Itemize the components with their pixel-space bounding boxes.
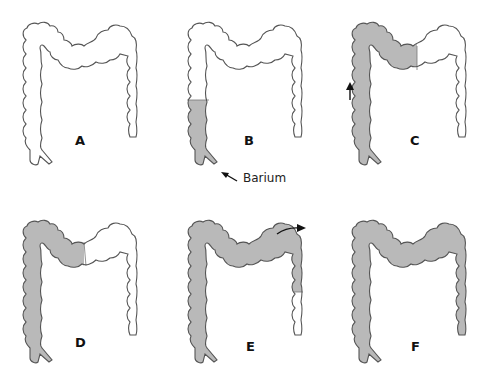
- colon-empty-icon: [0, 0, 165, 193]
- colon-partially-filled-icon: [329, 0, 494, 193]
- colon-fully-filled-icon: [329, 198, 494, 386]
- panel-label: D: [75, 335, 86, 350]
- panel-e: E: [165, 198, 330, 386]
- panel-c: C: [329, 0, 494, 193]
- panel-label: F: [411, 339, 420, 354]
- panel-f: F: [329, 198, 494, 386]
- panel-label: C: [410, 133, 420, 148]
- barium-enema-figure: A B Barium: [0, 0, 497, 386]
- panel-d: D: [0, 198, 165, 386]
- colon-partially-filled-icon: [165, 198, 330, 386]
- panel-label: E: [246, 339, 255, 354]
- arrow-icon: [221, 172, 237, 181]
- panel-b: B Barium: [165, 0, 330, 193]
- panel-label: B: [244, 133, 254, 148]
- panel-a: A: [0, 0, 165, 193]
- colon-partially-filled-icon: [0, 198, 165, 386]
- barium-annotation: Barium: [243, 171, 286, 185]
- colon-partially-filled-icon: [165, 0, 330, 193]
- panel-label: A: [75, 133, 85, 148]
